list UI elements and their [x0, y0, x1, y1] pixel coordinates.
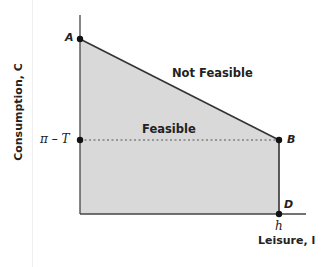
x-tick-h: h	[275, 219, 283, 233]
point-B	[276, 137, 282, 143]
x-axis-label: Leisure, l	[258, 234, 315, 247]
y-tick-pi-minus-T: π – T	[40, 132, 70, 146]
point-pi-minus-T	[77, 137, 83, 143]
point-A	[77, 36, 83, 42]
feasible-label: Feasible	[142, 122, 196, 136]
not-feasible-label: Not Feasible	[172, 66, 253, 80]
point-D-label: D	[284, 198, 293, 211]
point-B-label: B	[287, 133, 295, 146]
point-D	[276, 211, 282, 217]
y-axis-label: Consumption, C	[12, 63, 25, 161]
point-A-label: A	[65, 31, 74, 44]
